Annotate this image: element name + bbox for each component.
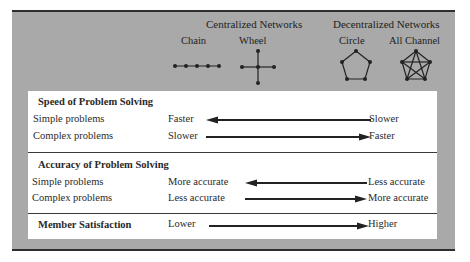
row-right-value: More accurate bbox=[368, 192, 428, 203]
row-right-value: Less accurate bbox=[368, 176, 425, 187]
row-label: Simple problems bbox=[33, 113, 104, 124]
row-left-value: More accurate bbox=[168, 176, 228, 187]
row-left-value: Faster bbox=[168, 113, 194, 124]
section-title-speed: Speed of Problem Solving bbox=[38, 96, 153, 107]
section-title-member-satisfaction: Member Satisfaction bbox=[38, 219, 131, 230]
decentralized-networks-title: Decentralized Networks bbox=[333, 18, 440, 30]
arrow-right-icon bbox=[209, 222, 369, 230]
row-right-value: Faster bbox=[369, 130, 395, 141]
centralized-networks-title: Centralized Networks bbox=[206, 18, 302, 30]
section-title-accuracy: Accuracy of Problem Solving bbox=[38, 159, 169, 170]
arrow-left-icon bbox=[206, 116, 371, 124]
network-label-wheel: Wheel bbox=[239, 35, 266, 46]
row-label: Simple problems bbox=[32, 176, 103, 187]
all-channel-icon bbox=[398, 48, 434, 84]
row-left-value: Lower bbox=[168, 218, 195, 229]
row-right-value: Higher bbox=[368, 218, 397, 229]
network-label-circle: Circle bbox=[339, 35, 365, 46]
section-divider bbox=[28, 152, 437, 153]
row-label: Complex problems bbox=[32, 192, 112, 203]
circle-network-icon bbox=[338, 48, 374, 84]
section-divider bbox=[28, 213, 437, 214]
row-label: Complex problems bbox=[33, 130, 113, 141]
row-left-value: Less accurate bbox=[168, 192, 225, 203]
wheel-icon bbox=[240, 49, 276, 85]
arrow-right-icon bbox=[206, 133, 371, 141]
network-label-all-channel: All Channel bbox=[389, 35, 440, 46]
row-right-value: Slower bbox=[369, 113, 399, 124]
arrow-right-icon bbox=[245, 195, 367, 203]
arrow-left-icon bbox=[245, 179, 367, 187]
chain-icon bbox=[172, 62, 222, 70]
row-left-value: Slower bbox=[168, 130, 198, 141]
network-label-chain: Chain bbox=[181, 35, 206, 46]
